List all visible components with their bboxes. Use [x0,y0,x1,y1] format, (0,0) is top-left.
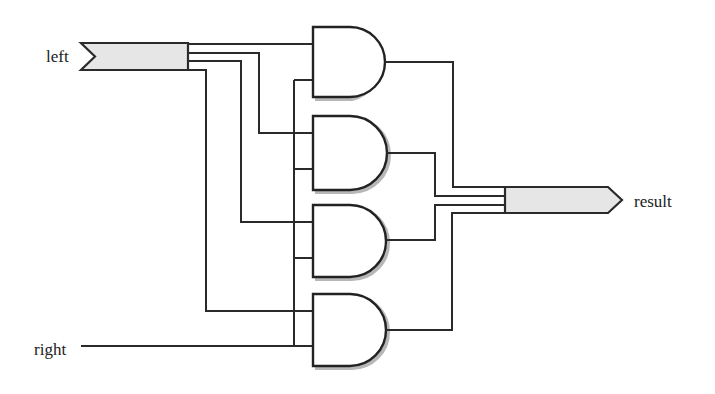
result-output-bus [505,187,622,213]
wire-out-bit3 [386,213,505,330]
right-input-label: right [34,340,66,359]
result-output-label: result [634,192,672,211]
output-wires [385,62,505,330]
and-gate-1 [313,116,387,190]
wire-out-bit1 [387,153,505,196]
wire-out-bit2 [386,205,505,240]
and-gate-2 [313,205,386,277]
wire-out-bit0 [385,62,505,187]
left-input-label: left [46,47,69,66]
left-input-bus [81,43,188,70]
and-gate-3 [313,294,386,366]
and-gate-0 [313,27,385,97]
circuit-diagram: left right result [0,0,715,394]
right-input-wires [81,80,313,346]
